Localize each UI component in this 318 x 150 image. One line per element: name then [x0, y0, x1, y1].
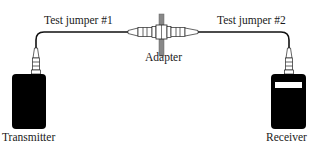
jumper-2-adapter-connector-icon — [167, 27, 198, 38]
receiver-device-icon — [271, 74, 306, 129]
test-jumper-2-label: Test jumper #2 — [217, 15, 286, 27]
test-jumper-1-label: Test jumper #1 — [44, 15, 113, 27]
adapter-icon — [156, 14, 167, 56]
jumper-1-adapter-connector-icon — [128, 27, 156, 38]
transmitter-label: Transmitter — [2, 132, 55, 144]
adapter-label: Adapter — [145, 52, 182, 64]
transmitter-connector-icon — [32, 48, 41, 74]
test-jumper-2-cable — [198, 32, 289, 50]
receiver-label: Receiver — [266, 132, 307, 144]
transmitter-device-icon — [12, 74, 46, 129]
test-jumper-1-cable — [36, 32, 128, 50]
receiver-connector-icon — [285, 48, 294, 74]
receiver-display — [275, 82, 302, 88]
